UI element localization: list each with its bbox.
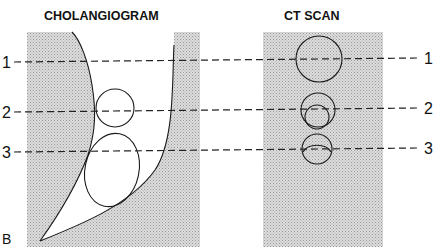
level-label-left-1: 1 — [2, 54, 11, 71]
ct-background — [263, 32, 383, 247]
ct-scan-panel — [263, 32, 383, 247]
cholangiogram-title: CHOLANGIOGRAM — [44, 9, 159, 23]
level-label-right-1: 1 — [424, 50, 433, 67]
level-label-left-2: 2 — [2, 104, 11, 121]
level-label-right-2: 2 — [424, 100, 433, 117]
level-label-right-3: 3 — [424, 140, 433, 157]
cholangiogram-panel — [27, 32, 200, 247]
diagram-canvas: CHOLANGIOGRAM CT SCAN 1 2 3 1 2 3 B — [0, 0, 441, 252]
panel-label: B — [2, 231, 11, 247]
level-label-left-3: 3 — [2, 144, 11, 161]
ct-scan-title: CT SCAN — [284, 9, 340, 23]
